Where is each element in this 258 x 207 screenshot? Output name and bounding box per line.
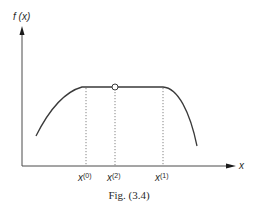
point-x2-circle	[112, 84, 118, 90]
tick-label-x2: x(2)	[106, 172, 121, 183]
function-curve	[36, 87, 197, 146]
x-axis-label: x	[238, 160, 245, 171]
x-axis-arrow-icon	[226, 164, 236, 169]
figure-caption: Fig. (3.4)	[0, 189, 258, 201]
tick-label-x0: x(0)	[77, 172, 92, 183]
y-axis-arrow-icon	[20, 26, 25, 35]
y-axis-label: f (x)	[13, 11, 30, 22]
figure: f (x) x x(0) x(2) x(1) Fig. (3.4)	[0, 0, 258, 207]
plot-canvas: f (x) x x(0) x(2) x(1)	[0, 0, 258, 207]
tick-label-x1: x(1)	[154, 172, 169, 183]
